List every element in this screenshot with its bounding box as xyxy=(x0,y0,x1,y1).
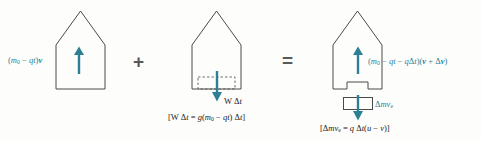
label-initial-momentum: (m0 − qt)v xyxy=(8,56,42,66)
term-weight-impulse: W Δt [W Δt = g(m0 − qt) Δt] xyxy=(160,0,275,141)
velocity-arrow-up-3 xyxy=(351,45,365,75)
term-initial-momentum: (m0 − qt)v xyxy=(0,0,125,141)
equals-operator: = xyxy=(282,51,293,70)
label-final-momentum: (m0 − qt − qΔt)(v + Δv) xyxy=(368,57,447,67)
weight-arrow-down-2 xyxy=(210,70,224,103)
exhaust-arrow-down-3 xyxy=(351,94,365,122)
equation-exhaust-momentum: [Δmve = q Δt(u − v)] xyxy=(320,124,390,134)
term-final-momentum: (m0 − qt − qΔt)(v + Δv) Δmve [Δmve = q Δ… xyxy=(305,0,481,141)
velocity-arrow-up-1 xyxy=(72,45,86,75)
equation-weight-impulse: [W Δt = g(m0 − qt) Δt] xyxy=(168,113,245,123)
label-exhaust-block: Δmve xyxy=(375,100,393,110)
rocket-momentum-figure: (m0 − qt)v + W Δt [W Δt = g(m0 − qt) Δt]… xyxy=(0,0,481,141)
plus-operator: + xyxy=(133,52,144,71)
label-weight-impulse: W Δt xyxy=(224,97,242,106)
